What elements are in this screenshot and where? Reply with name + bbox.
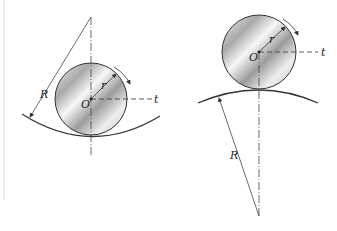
- right-figure: R r O t: [198, 15, 326, 216]
- left-label-r: r: [101, 79, 107, 92]
- left-figure: R r O t: [22, 17, 160, 155]
- left-label-R: R: [39, 88, 48, 101]
- right-label-r: r: [269, 33, 275, 46]
- diagram-canvas: R r O t R r O t: [0, 0, 337, 231]
- right-radius-R-line: [219, 98, 259, 216]
- right-label-O: O: [249, 51, 258, 64]
- right-label-t: t: [321, 46, 326, 59]
- right-convex-surface: [198, 90, 318, 103]
- left-label-O: O: [81, 98, 90, 111]
- right-label-R: R: [229, 149, 238, 162]
- left-label-t: t: [154, 93, 159, 106]
